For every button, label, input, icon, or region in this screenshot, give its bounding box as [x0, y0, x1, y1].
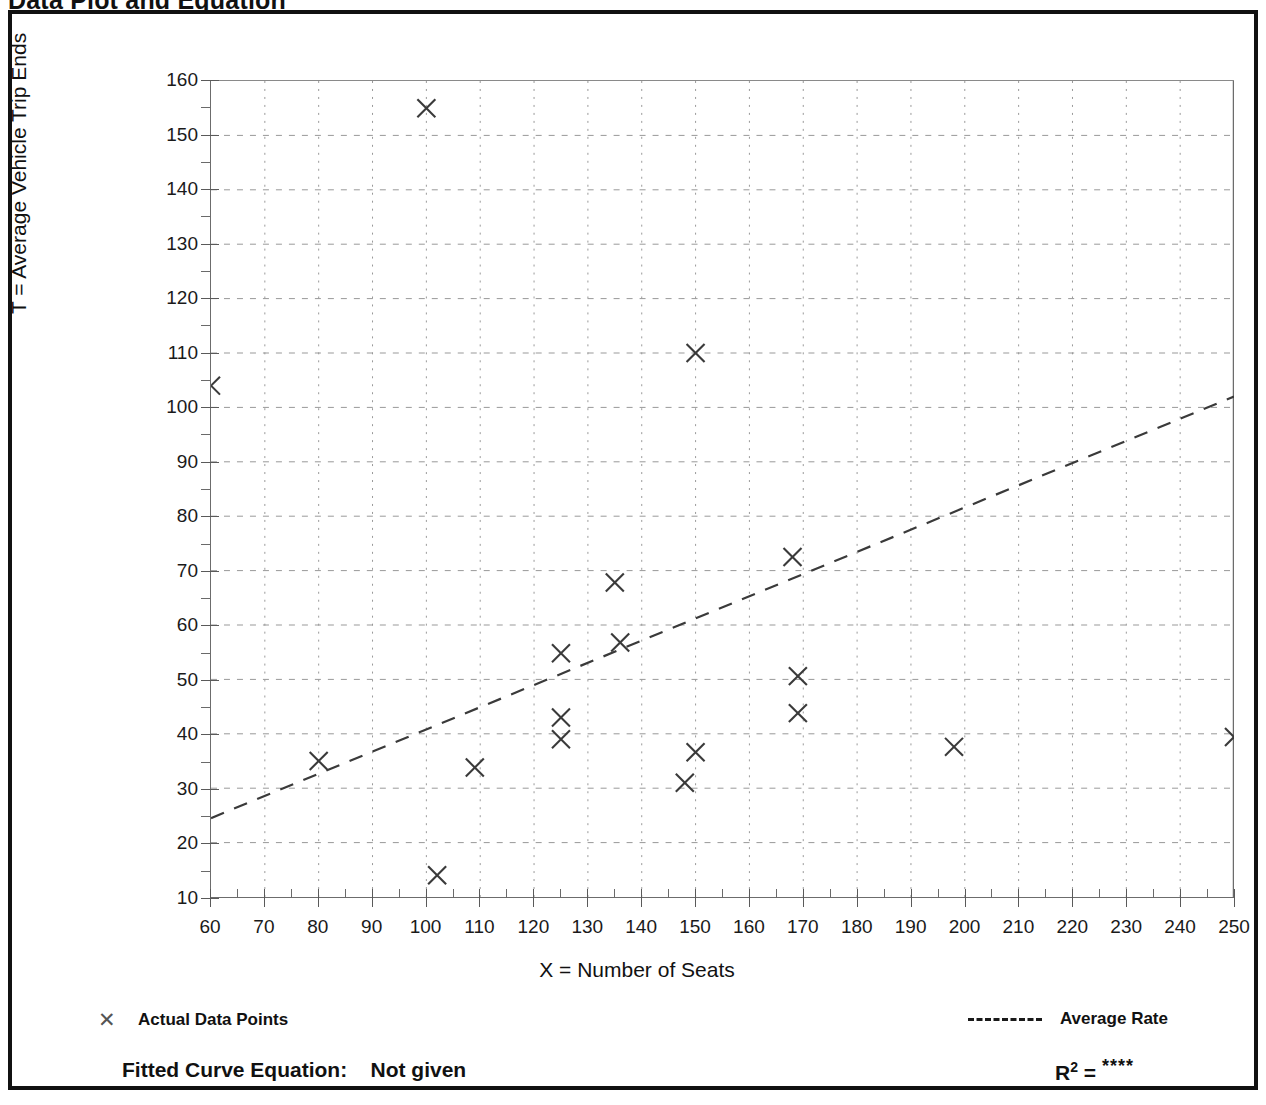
x-axis-major-tick — [1234, 889, 1235, 907]
y-axis-tick-label: 80 — [144, 505, 198, 527]
y-axis-minor-tick — [201, 162, 210, 163]
data-point-marker — [466, 759, 484, 777]
y-axis-major-tick — [201, 80, 219, 81]
y-axis-major-tick — [201, 734, 219, 735]
y-axis-major-tick — [201, 135, 219, 136]
x-axis-minor-tick — [884, 889, 885, 898]
x-axis-major-tick — [1180, 889, 1181, 907]
y-axis-minor-tick — [201, 762, 210, 763]
y-axis-tick-label: 90 — [144, 451, 198, 473]
y-axis-minor-tick — [201, 598, 210, 599]
dashed-line-icon — [968, 1018, 1042, 1021]
y-axis-major-tick — [201, 843, 219, 844]
equation-value: Not given — [371, 1058, 467, 1081]
x-axis-major-tick — [479, 889, 480, 907]
y-axis-minor-tick — [201, 871, 210, 872]
y-axis-major-tick — [201, 571, 219, 572]
x-axis-minor-tick — [938, 889, 939, 898]
y-axis-minor-tick — [201, 707, 210, 708]
r2-stars: **** — [1102, 1056, 1134, 1076]
x-axis-tick-label: 100 — [396, 916, 456, 938]
trendline-average-rate — [211, 397, 1234, 819]
x-axis-minor-tick — [506, 889, 507, 898]
x-axis-tick-label: 160 — [719, 916, 779, 938]
y-axis-major-tick — [201, 516, 219, 517]
x-axis-minor-tick — [991, 889, 992, 898]
y-axis-tick-label: 120 — [144, 287, 198, 309]
y-axis-tick-label: 130 — [144, 233, 198, 255]
data-point-marker — [945, 738, 963, 756]
y-axis-tick-label: 100 — [144, 396, 198, 418]
x-axis-minor-tick — [291, 889, 292, 898]
y-axis-minor-tick — [201, 816, 210, 817]
r2-label: R — [1055, 1061, 1070, 1084]
y-axis-minor-tick — [201, 653, 210, 654]
x-axis-major-tick — [1018, 889, 1019, 907]
y-axis-tick-label: 150 — [144, 124, 198, 146]
data-point-marker — [428, 866, 446, 884]
y-axis-major-tick — [201, 244, 219, 245]
legend-label-actual-data-points: Actual Data Points — [138, 1010, 288, 1030]
y-axis-major-tick — [201, 407, 219, 408]
y-axis-minor-tick — [201, 489, 210, 490]
x-axis-major-tick — [749, 889, 750, 907]
data-point-marker — [310, 752, 328, 770]
data-point-marker — [211, 377, 220, 395]
y-axis-title: T = Average Vehicle Trip Ends — [7, 0, 31, 314]
x-axis-tick-label: 130 — [557, 916, 617, 938]
x-axis-major-tick — [318, 889, 319, 907]
x-axis-major-tick — [533, 889, 534, 907]
y-axis-minor-tick — [201, 107, 210, 108]
x-axis-major-tick — [372, 889, 373, 907]
r2-exponent: 2 — [1070, 1059, 1078, 1075]
data-point-marker — [789, 667, 807, 685]
y-axis-major-tick — [201, 462, 219, 463]
x-axis-major-tick — [587, 889, 588, 907]
x-axis-major-tick — [965, 889, 966, 907]
data-point-marker — [676, 774, 694, 792]
data-point-marker — [552, 730, 570, 748]
x-axis-major-tick — [426, 889, 427, 907]
x-axis-tick-label: 210 — [988, 916, 1048, 938]
legend-label-average-rate: Average Rate — [1060, 1009, 1168, 1029]
y-axis-major-tick — [201, 189, 219, 190]
y-axis-minor-tick — [201, 434, 210, 435]
x-axis-major-tick — [911, 889, 912, 907]
x-axis-tick-label: 230 — [1096, 916, 1156, 938]
x-axis-minor-tick — [776, 889, 777, 898]
x-axis-minor-tick — [614, 889, 615, 898]
data-point-marker — [789, 704, 807, 722]
x-axis-minor-tick — [830, 889, 831, 898]
x-axis-tick-label: 190 — [881, 916, 941, 938]
y-axis-minor-tick — [201, 216, 210, 217]
data-point-marker — [687, 344, 705, 362]
x-axis-minor-tick — [722, 889, 723, 898]
x-axis-tick-label: 220 — [1042, 916, 1102, 938]
x-axis-major-tick — [264, 889, 265, 907]
x-marker-icon: ✕ — [98, 1009, 116, 1030]
x-axis-minor-tick — [668, 889, 669, 898]
y-axis-tick-label: 40 — [144, 723, 198, 745]
fitted-curve-equation: Fitted Curve Equation: Not given — [122, 1058, 466, 1082]
y-axis-major-tick — [201, 789, 219, 790]
y-axis-tick-label: 140 — [144, 178, 198, 200]
x-axis-major-tick — [803, 889, 804, 907]
y-axis-tick-label: 160 — [144, 69, 198, 91]
legend-item-actual-data-points: ✕ Actual Data Points — [98, 1009, 288, 1030]
x-axis-tick-label: 70 — [234, 916, 294, 938]
x-axis-minor-tick — [1099, 889, 1100, 898]
data-point-marker — [552, 709, 570, 727]
y-axis-tick-label: 30 — [144, 778, 198, 800]
x-axis-tick-label: 140 — [611, 916, 671, 938]
equation-label: Fitted Curve Equation: — [122, 1058, 347, 1081]
x-axis-tick-label: 240 — [1150, 916, 1210, 938]
y-axis-minor-tick — [201, 544, 210, 545]
plot-canvas — [211, 81, 1234, 897]
y-axis-minor-tick — [201, 325, 210, 326]
x-axis-major-tick — [641, 889, 642, 907]
x-axis-tick-label: 60 — [180, 916, 240, 938]
y-axis-minor-tick — [201, 380, 210, 381]
y-axis-tick-label: 20 — [144, 832, 198, 854]
x-axis-major-tick — [857, 889, 858, 907]
x-axis-tick-label: 170 — [773, 916, 833, 938]
